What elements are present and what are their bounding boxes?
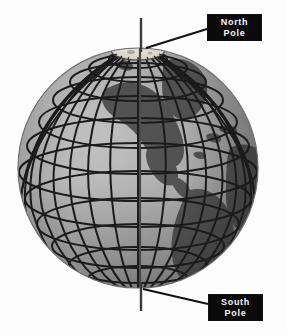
- globe-sphere: [18, 40, 274, 292]
- north-pole-pointer-line: [146, 29, 207, 48]
- south-pole-pointer-line: [143, 289, 208, 304]
- globe-illustration: [0, 0, 287, 335]
- south-pole-label-line2: Pole: [213, 308, 258, 319]
- globe-surface: [18, 40, 274, 292]
- south-pole-label-line1: South: [213, 297, 258, 308]
- north-pole-label-line2: Pole: [212, 28, 257, 39]
- south-pole-label: South Pole: [208, 294, 263, 321]
- globe-diagram: North Pole South Pole: [0, 0, 287, 335]
- north-pole-label-line1: North: [212, 17, 257, 28]
- north-pole-label: North Pole: [207, 14, 262, 41]
